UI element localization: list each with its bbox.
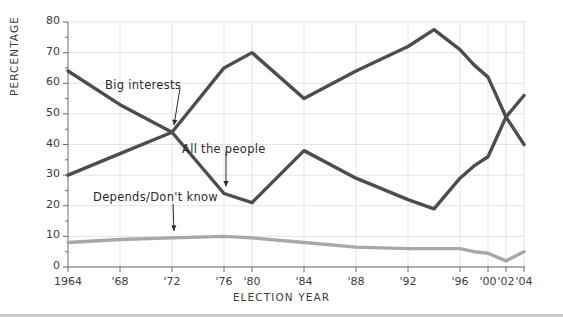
y-axis-title: PERCENTAGE <box>8 16 20 96</box>
y-tick-label: 40 <box>30 137 60 150</box>
x-tick-label: 1964 <box>46 275 90 288</box>
x-tick-label: '92 <box>386 275 430 288</box>
x-tick-label: '68 <box>98 275 142 288</box>
annotation-arrows <box>171 88 228 231</box>
y-tick-label: 50 <box>30 106 60 119</box>
x-tick-label: '84 <box>282 275 326 288</box>
y-tick-label: 60 <box>30 75 60 88</box>
x-tick-label: '04 <box>502 275 546 288</box>
gridlines <box>68 22 525 267</box>
y-tick-label: 70 <box>30 45 60 58</box>
x-tick-label: '72 <box>150 275 194 288</box>
y-tick-label: 20 <box>30 198 60 211</box>
x-axis-title: ELECTION YEAR <box>0 291 563 303</box>
y-tick-label: 30 <box>30 167 60 180</box>
y-tick-label: 10 <box>30 228 60 241</box>
y-tick-label: 0 <box>30 259 60 272</box>
series-line <box>68 30 524 175</box>
line-chart-canvas <box>0 0 563 317</box>
series-annotation-label: Depends/Don't know <box>93 190 218 204</box>
x-tick-label: '80 <box>230 275 274 288</box>
series-annotation-label: Big interests <box>105 78 181 92</box>
x-tick-label: '88 <box>334 275 378 288</box>
chart-figure: PERCENTAGE ELECTION YEAR 1964'68'72'76'8… <box>0 0 563 317</box>
data-series-lines <box>68 30 524 261</box>
y-tick-label: 80 <box>30 14 60 27</box>
series-line <box>68 236 524 261</box>
series-annotation-label: All the people <box>182 142 266 156</box>
